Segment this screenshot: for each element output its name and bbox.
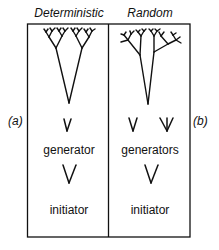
initiator-label-random: initiator [110, 203, 190, 217]
generator-label: generator [30, 143, 108, 157]
generators-label: generators [110, 143, 190, 157]
generator-icon [64, 119, 71, 131]
initiator-icon [63, 165, 76, 183]
generator-icon-2 [160, 118, 173, 131]
initiator-icon-random [145, 165, 158, 183]
deterministic-tree-icon [44, 28, 95, 103]
generator-icon-1 [129, 118, 137, 131]
random-tree-icon [121, 29, 181, 104]
initiator-label: initiator [30, 203, 108, 217]
